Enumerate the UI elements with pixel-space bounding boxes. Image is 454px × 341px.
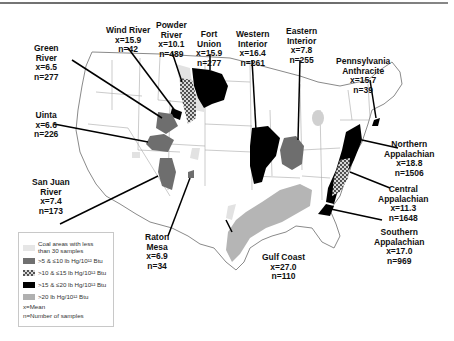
- swatch-light-gray: [23, 245, 35, 251]
- basin-count: n=173: [32, 207, 70, 217]
- swatch-black: [23, 282, 35, 288]
- legend-n-note: n=Number of samples: [23, 312, 84, 319]
- label-green-river: Green River x=6.5 n=277: [34, 44, 59, 82]
- basin-count: n=39: [336, 86, 390, 96]
- legend-item-5-10: >5 & ≤10 lb Hg/10¹² Btu: [23, 258, 103, 265]
- basin-count: n=277: [196, 59, 222, 69]
- swatch-medium-gray: [23, 294, 35, 300]
- label-western-interior: Western Interior x=16.4 n=261: [236, 30, 269, 68]
- legend-item-gt-20: >20 lb Hg/10¹² Btu: [23, 294, 88, 301]
- legend-label: >10 & ≤15 lb Hg/10¹² Btu: [38, 270, 106, 277]
- label-raton-mesa: Raton Mesa x=6.9 n=34: [145, 233, 169, 271]
- basin-count: n=261: [236, 59, 269, 69]
- label-wind-river: Wind River x=15.9 n=42: [106, 26, 150, 55]
- legend-label: than 30 samples: [38, 248, 93, 255]
- legend-item-15-20: >15 & ≤20 lb Hg/10¹² Btu: [23, 282, 106, 289]
- basin-count: n=1648: [378, 214, 429, 224]
- label-san-juan-river: San Juan River x=7.4 n=173: [32, 178, 70, 216]
- legend-label: >15 & ≤20 lb Hg/10¹² Btu: [38, 282, 106, 289]
- label-fort-union: Fort Union x=15.9 n=277: [196, 30, 222, 68]
- label-gulf-coast: Gulf Coast x=27.0 n=110: [262, 253, 305, 282]
- label-northern-appalachian: Northern Appalachian x=18.8 n=1506: [384, 140, 435, 178]
- legend-label: >20 lb Hg/10¹² Btu: [38, 294, 88, 301]
- legend-label: >5 & ≤10 lb Hg/10¹² Btu: [38, 258, 103, 265]
- label-eastern-interior: Eastern Interior x=7.8 n=255: [286, 27, 317, 65]
- label-southern-appalachian: Southern Appalachian x=17.0 n=969: [374, 228, 425, 266]
- basin-count: n=255: [286, 56, 317, 66]
- basin-count: n=277: [34, 73, 59, 83]
- label-uinta: Uinta x=6.6 n=226: [34, 111, 58, 140]
- basin-count: n=34: [145, 262, 169, 272]
- swatch-hatched: [23, 270, 35, 276]
- label-central-appalachian: Central Appalachian x=11.3 n=1648: [378, 185, 429, 223]
- basin-count: n=226: [34, 130, 58, 140]
- swatch-dark-gray: [23, 258, 35, 264]
- basin-count: n=42: [106, 45, 150, 55]
- basin-count: n=969: [374, 257, 425, 267]
- legend-item-10-15: >10 & ≤15 lb Hg/10¹² Btu: [23, 270, 106, 277]
- label-pennsylvania-anthracite: Pennsylvania Anthracite x=15.7 n=39: [336, 57, 390, 95]
- map-legend: Coal areas with lessthan 30 samples >5 &…: [18, 232, 114, 327]
- legend-mean-note: x=Mean: [23, 303, 45, 310]
- basin-count: n=1506: [384, 169, 435, 179]
- legend-item-less-than-30: Coal areas with lessthan 30 samples: [23, 241, 93, 254]
- label-powder-river: Powder River x=10.1 n=489: [156, 21, 187, 59]
- basin-count: n=110: [262, 272, 305, 282]
- basin-count: n=489: [156, 50, 187, 60]
